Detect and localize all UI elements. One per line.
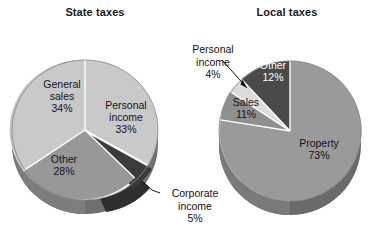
- local-label-property-line1: Property: [288, 137, 350, 149]
- local-label-property-pct: 73%: [288, 149, 350, 161]
- state-label-personal-income-line2: income: [93, 111, 159, 123]
- local-label-sales: Sales 11%: [222, 96, 270, 120]
- local-label-personal-income-line2: income: [179, 56, 247, 69]
- tax-pie-charts-figure: State taxes Local taxes: [0, 0, 375, 240]
- state-label-general-sales-line2: sales: [26, 90, 98, 102]
- local-label-personal-income: Personal income 4%: [179, 43, 247, 81]
- state-label-other-line1: Other: [34, 153, 94, 165]
- local-label-other-pct: 12%: [249, 71, 297, 83]
- state-label-general-sales: General sales 34%: [26, 78, 98, 114]
- state-label-personal-income-line1: Personal: [93, 99, 159, 111]
- local-label-sales-pct: 11%: [222, 108, 270, 120]
- local-label-other: Other 12%: [249, 59, 297, 83]
- state-label-other: Other 28%: [34, 153, 94, 177]
- local-label-personal-income-line1: Personal: [179, 43, 247, 56]
- state-label-personal-income: Personal income 33%: [93, 99, 159, 135]
- state-label-corporate-income-line2: income: [158, 200, 232, 213]
- local-label-personal-income-pct: 4%: [179, 68, 247, 81]
- local-label-sales-line1: Sales: [222, 96, 270, 108]
- state-label-corporate-income-pct: 5%: [158, 212, 232, 225]
- state-label-other-pct: 28%: [34, 165, 94, 177]
- local-label-property: Property 73%: [288, 137, 350, 161]
- local-label-other-line1: Other: [249, 59, 297, 71]
- state-label-corporate-income-line1: Corporate: [158, 187, 232, 200]
- state-label-personal-income-pct: 33%: [93, 123, 159, 135]
- state-label-general-sales-line1: General: [26, 78, 98, 90]
- state-label-corporate-income: Corporate income 5%: [158, 187, 232, 225]
- state-label-general-sales-pct: 34%: [26, 102, 98, 114]
